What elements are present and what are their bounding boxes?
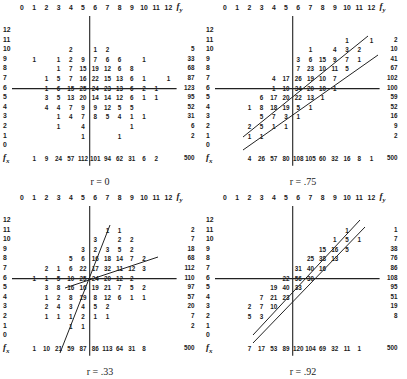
- axis-lines: [0, 190, 200, 375]
- correlation-table-2: 0123456789101112fy1211112103227932352188…: [0, 190, 200, 375]
- correlation-table-1: 0123456789101112fy1211112101432109361597…: [203, 0, 403, 185]
- correlation-table-3: 0123456789101112fy1211111015179151653882…: [203, 190, 403, 375]
- correlation-table-0: 0123456789101112fy1211102125911297661338…: [0, 0, 200, 185]
- axis-lines: [203, 0, 403, 185]
- axis-lines: [0, 0, 200, 185]
- axis-lines: [203, 190, 403, 375]
